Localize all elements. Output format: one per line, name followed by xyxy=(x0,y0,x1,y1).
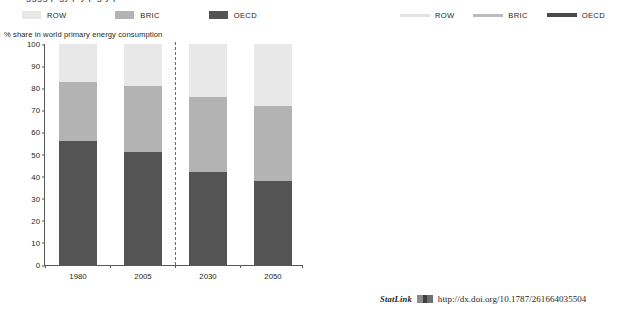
legend-item-bric: BRIC xyxy=(115,11,208,20)
bar-segment-oecd-2050 xyxy=(254,181,292,265)
bar-segment-row-1980 xyxy=(59,44,97,82)
legend-label-bric: BRIC xyxy=(140,11,160,20)
left-xmark-4 xyxy=(302,265,303,268)
left-ytick-70: 70 xyxy=(0,106,45,115)
left-xmark-0 xyxy=(45,265,46,268)
left-xmark-2 xyxy=(175,265,176,268)
bar-2030[interactable] xyxy=(189,44,227,265)
left-ytick-60: 60 xyxy=(0,128,45,137)
left-chart-panel: ROW BRIC OECD % share in world primary e… xyxy=(0,0,312,311)
legend-label-row-line: ROW xyxy=(435,11,455,20)
bar-segment-bric-2005 xyxy=(124,86,162,152)
bar-segment-bric-2050 xyxy=(254,106,292,181)
left-chart-axis-subtitle: % share in world primary energy consumpt… xyxy=(4,30,162,39)
bar-segment-oecd-1980 xyxy=(59,141,97,265)
bar-2050[interactable] xyxy=(254,44,292,265)
statlink-icon xyxy=(417,295,433,303)
bar-1980[interactable] xyxy=(59,44,97,265)
bar-2005[interactable] xyxy=(124,44,162,265)
legend-item-bric-line: BRIC xyxy=(473,11,546,20)
legend-line-row xyxy=(400,14,430,17)
legend-swatch-bric xyxy=(115,11,134,19)
left-ytick-90: 90 xyxy=(0,62,45,71)
right-chart-legend: ROW BRIC OECD xyxy=(400,8,619,22)
left-chart-legend: ROW BRIC OECD xyxy=(22,8,302,22)
legend-swatch-row xyxy=(22,11,41,19)
left-ytick-10: 10 xyxy=(0,238,45,247)
statlink[interactable]: StatLink http://dx.doi.org/10.1787/26166… xyxy=(380,294,586,304)
bar-segment-bric-2030 xyxy=(189,97,227,172)
left-chart-plot-area: 100 90 80 70 60 50 40 30 20 10 0 xyxy=(44,44,302,266)
left-xtick-2005: 2005 xyxy=(134,272,151,281)
bar-segment-row-2005 xyxy=(124,44,162,86)
bar-segment-oecd-2030 xyxy=(189,172,227,265)
legend-swatch-oecd xyxy=(209,11,228,19)
legend-label-bric-line: BRIC xyxy=(508,11,528,20)
left-xmark-1 xyxy=(110,265,111,268)
legend-line-bric xyxy=(473,14,503,17)
left-xtick-2050: 2050 xyxy=(264,272,281,281)
left-xtick-2030: 2030 xyxy=(199,272,216,281)
right-chart-panel: ROW BRIC OECD Primary energy intensity (… xyxy=(312,0,619,311)
statlink-label: StatLink xyxy=(380,294,412,304)
left-ytick-80: 80 xyxy=(0,84,45,93)
bar-segment-bric-1980 xyxy=(59,82,97,142)
left-xtick-1980: 1980 xyxy=(69,272,86,281)
legend-label-row: ROW xyxy=(47,11,67,20)
legend-item-oecd: OECD xyxy=(209,11,302,20)
left-xmark-3 xyxy=(240,265,241,268)
left-ytick-20: 20 xyxy=(0,216,45,225)
legend-label-oecd: OECD xyxy=(234,11,257,20)
left-ytick-40: 40 xyxy=(0,172,45,181)
left-ytick-50: 50 xyxy=(0,150,45,159)
legend-line-oecd xyxy=(547,13,577,17)
left-ytick-30: 30 xyxy=(0,194,45,203)
legend-item-row: ROW xyxy=(22,11,115,20)
left-ytick-100: 100 xyxy=(0,40,45,49)
legend-item-oecd-line: OECD xyxy=(547,11,619,20)
legend-item-row-line: ROW xyxy=(400,11,473,20)
legend-label-oecd-line: OECD xyxy=(582,11,605,20)
bar-segment-oecd-2005 xyxy=(124,152,162,265)
statlink-url[interactable]: http://dx.doi.org/10.1787/261664035504 xyxy=(438,294,587,304)
bar-segment-row-2030 xyxy=(189,44,227,97)
bar-segment-row-2050 xyxy=(254,44,292,106)
left-ytick-0: 0 xyxy=(0,261,45,270)
history-projection-divider xyxy=(175,42,176,265)
